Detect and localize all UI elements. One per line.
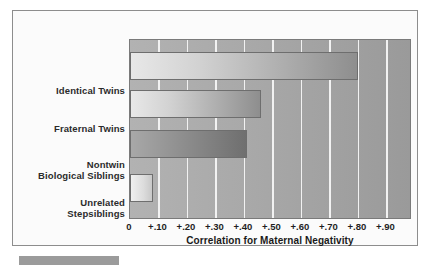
x-tick-label: +.20 [177, 221, 196, 232]
x-tick-label: +.60 [291, 221, 310, 232]
x-tick-label: +.70 [319, 221, 338, 232]
x-tick-label: +.10 [148, 221, 167, 232]
gridline [358, 40, 360, 218]
category-label-line1: Unrelated [21, 197, 125, 208]
category-label-unrelated-stepsiblings: Unrelated Stepsiblings [21, 197, 125, 219]
category-label-nontwin-biological-siblings: Nontwin Biological Siblings [21, 159, 125, 181]
category-label-line2: Stepsiblings [21, 208, 125, 219]
x-tick-label: +.30 [205, 221, 224, 232]
x-axis-title: Correlation for Maternal Negativity [129, 235, 411, 246]
gridline [386, 40, 388, 218]
figure-container: Identical Twins Fraternal Twins Nontwin … [0, 0, 431, 269]
bar-unrelated-stepsiblings [130, 174, 153, 202]
bar-identical-twins [130, 52, 358, 80]
caption-highlight-bar [19, 256, 119, 265]
x-tick-label: 0 [126, 221, 131, 232]
category-label-identical-twins: Identical Twins [21, 85, 125, 96]
x-tick-label: +.90 [376, 221, 395, 232]
x-tick-label: +.80 [347, 221, 366, 232]
category-label-line1: Fraternal Twins [21, 123, 125, 134]
category-label-line1: Nontwin [21, 159, 125, 170]
chart-frame: Identical Twins Fraternal Twins Nontwin … [12, 10, 418, 246]
category-axis-labels: Identical Twins Fraternal Twins Nontwin … [19, 39, 125, 219]
category-label-fraternal-twins: Fraternal Twins [21, 123, 125, 134]
bar-nontwin-biological-siblings [130, 130, 247, 158]
category-label-line2: Biological Siblings [21, 170, 125, 181]
bar-fraternal-twins [130, 90, 261, 118]
x-tick-label: +.40 [234, 221, 253, 232]
plot-area [129, 39, 411, 219]
category-label-line1: Identical Twins [21, 85, 125, 96]
value-axis-labels: 0+.10+.20+.30+.40+.50+.60+.70+.80+.90 [129, 221, 411, 235]
x-tick-label: +.50 [262, 221, 281, 232]
